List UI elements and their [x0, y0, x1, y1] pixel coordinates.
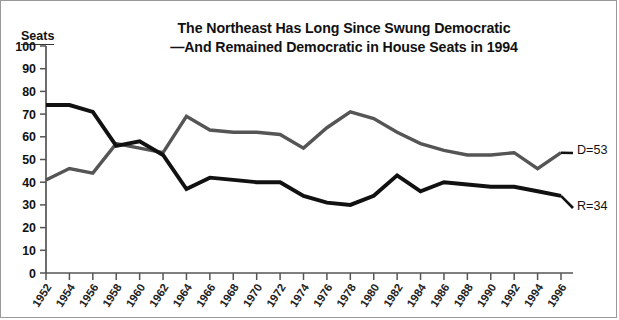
x-tick-label: 1994 — [522, 281, 546, 309]
axis-lines — [46, 46, 573, 273]
y-tick-label: 50 — [22, 153, 36, 167]
leader-line-republican — [561, 196, 573, 208]
x-tick-label: 1982 — [381, 282, 405, 310]
x-tick-label: 1952 — [30, 282, 54, 310]
annotation-republican: R=34 — [577, 199, 607, 213]
x-tick-label: 1984 — [404, 281, 428, 309]
x-tick-label: 1992 — [498, 282, 522, 310]
y-tick-label: 40 — [22, 176, 36, 190]
x-tick-label: 1976 — [311, 282, 335, 310]
y-tick-label: 70 — [22, 108, 36, 122]
x-tick-label: 1980 — [358, 282, 382, 310]
x-tick-label: 1954 — [53, 281, 77, 309]
x-tick-label: 1958 — [100, 282, 124, 310]
x-tick-label: 1960 — [124, 282, 148, 310]
y-axis-ticks: 0102030405060708090100 — [15, 40, 46, 281]
x-tick-label: 1974 — [287, 281, 311, 309]
x-tick-label: 1986 — [428, 282, 452, 310]
x-tick-label: 1956 — [77, 282, 101, 310]
x-tick-label: 1978 — [334, 282, 358, 310]
x-tick-label: 1996 — [545, 282, 569, 310]
x-tick-label: 1962 — [147, 282, 171, 310]
x-tick-label: 1988 — [451, 282, 475, 310]
y-tick-label: 10 — [22, 244, 36, 258]
y-tick-label: 0 — [29, 267, 36, 281]
x-tick-label: 1990 — [475, 282, 499, 310]
chart-figure: The Northeast Has Long Since Swung Democ… — [0, 0, 617, 318]
plot-area: 0102030405060708090100 19521954195619581… — [1, 1, 617, 318]
y-tick-label: 80 — [22, 85, 36, 99]
x-tick-label: 1968 — [217, 282, 241, 310]
annotation-democratic: D=53 — [577, 143, 607, 157]
x-tick-label: 1964 — [170, 281, 194, 309]
y-tick-label: 90 — [22, 62, 36, 76]
y-tick-label: 100 — [15, 40, 36, 54]
y-tick-label: 30 — [22, 198, 36, 212]
x-axis-ticks — [46, 273, 561, 280]
x-axis-tick-labels: 1952195419561958196019621964196619681970… — [30, 281, 569, 309]
x-tick-label: 1970 — [241, 282, 265, 310]
x-tick-label: 1966 — [194, 282, 218, 310]
x-tick-label: 1972 — [264, 282, 288, 310]
y-tick-label: 20 — [22, 221, 36, 235]
y-tick-label: 60 — [22, 130, 36, 144]
